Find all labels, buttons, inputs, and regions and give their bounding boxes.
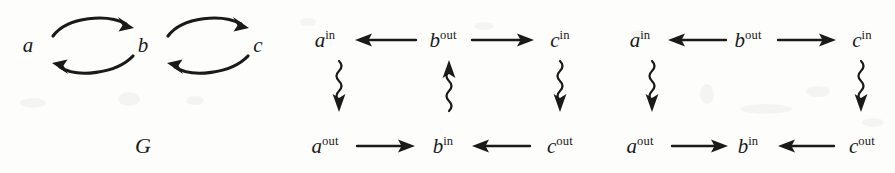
curved-edge-a-to-b xyxy=(50,14,136,40)
bipartite1-node-a-out: aout xyxy=(311,136,338,157)
paper-speckle xyxy=(20,98,46,108)
paper-speckle xyxy=(300,18,316,26)
paper-speckle xyxy=(862,118,884,127)
paper-speckle xyxy=(474,22,494,30)
curved-edge-c-to-b xyxy=(165,54,251,80)
paper-speckle xyxy=(700,84,714,104)
edge-bout-to-ain-1 xyxy=(355,33,417,47)
graph-node-c: c xyxy=(253,35,262,56)
bipartite2-node-c-out: cout xyxy=(849,136,875,157)
edge-cout-to-bin-2 xyxy=(778,139,834,153)
paper-speckle xyxy=(118,92,140,106)
graph-node-b: b xyxy=(138,35,149,56)
squiggly-edge-bin-to-bout-1 xyxy=(441,60,457,112)
bipartite1-node-b-in: bin xyxy=(433,136,454,157)
bipartite1-node-c-out: cout xyxy=(547,136,573,157)
bipartite2-node-b-out: bout xyxy=(734,30,761,51)
bipartite1-node-b-out: bout xyxy=(429,30,456,51)
bipartite2-node-b-in: bin xyxy=(738,136,759,157)
edge-cout-to-bin-1 xyxy=(472,139,530,153)
bipartite2-node-c-in: cin xyxy=(852,30,872,51)
squiggly-edge-ain-to-aout-2 xyxy=(644,60,660,112)
bipartite2-node-a-in: ain xyxy=(630,30,651,51)
paper-speckle xyxy=(806,86,830,97)
paper-speckle xyxy=(740,104,792,114)
squiggly-edge-cin-to-cout-1 xyxy=(552,60,568,112)
bipartite1-node-c-in: cin xyxy=(550,30,570,51)
bipartite2-node-a-out: aout xyxy=(626,136,653,157)
curved-edge-b-to-a xyxy=(50,54,136,80)
figure-canvas: a b c G ain bout cin aout bin cou xyxy=(0,0,895,173)
squiggly-edge-ain-to-aout-1 xyxy=(331,60,347,112)
bipartite1-node-a-in: ain xyxy=(315,30,336,51)
edge-aout-to-bin-1 xyxy=(357,139,415,153)
paper-speckle xyxy=(186,96,204,105)
edge-bout-to-cin-1 xyxy=(472,33,534,47)
squiggly-edge-cin-to-cout-2 xyxy=(853,60,869,112)
graph-caption-G: G xyxy=(135,133,151,159)
graph-node-a: a xyxy=(23,35,34,56)
edge-bout-to-cin-2 xyxy=(778,33,836,47)
curved-edge-b-to-c xyxy=(165,14,251,40)
edge-bout-to-ain-2 xyxy=(668,33,726,47)
edge-aout-to-bin-2 xyxy=(672,139,728,153)
